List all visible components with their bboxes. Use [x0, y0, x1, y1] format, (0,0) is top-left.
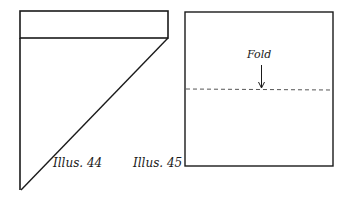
- top-band: [20, 11, 168, 38]
- caption-illus-44: Illus. 44: [52, 156, 102, 170]
- caption-illus-45: Illus. 45: [132, 156, 182, 170]
- fold-line: [186, 89, 332, 90]
- diagram-canvas: Illus. 44 Fold Illus. 45: [0, 0, 352, 199]
- fold-label: Fold: [246, 48, 271, 61]
- down-arrow-icon: [259, 65, 265, 88]
- illustration-45: Fold Illus. 45: [132, 12, 333, 170]
